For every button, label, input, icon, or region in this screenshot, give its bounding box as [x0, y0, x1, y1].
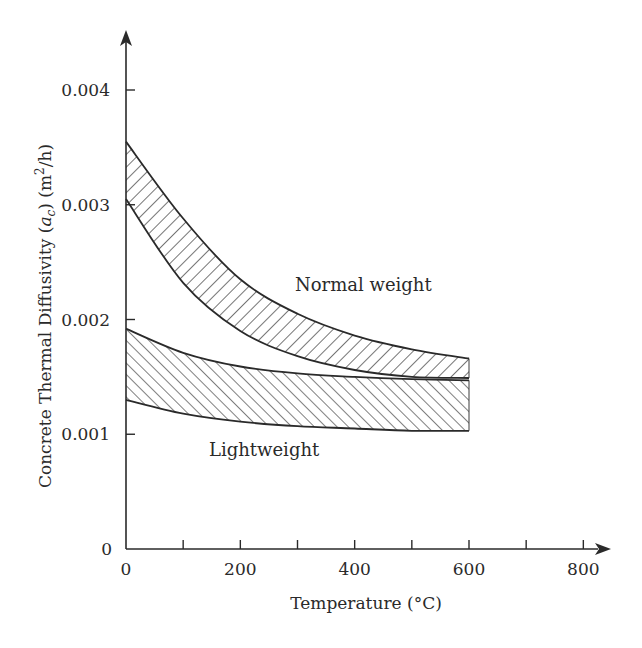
- y-ticks: 00.0010.0020.0030.004: [61, 80, 135, 559]
- normal-weight-label: Normal weight: [295, 274, 432, 295]
- x-tick-label: 200: [224, 559, 256, 579]
- normal-weight-band: [126, 142, 469, 378]
- x-tick-label: 0: [121, 559, 132, 579]
- x-ticks: 0200400600800: [121, 540, 600, 579]
- x-tick-label: 400: [338, 559, 370, 579]
- lightweight-label: Lightweight: [209, 439, 320, 460]
- y-tick-label: 0.003: [61, 195, 110, 215]
- y-tick-label: 0.001: [61, 424, 110, 444]
- y-tick-label: 0.002: [61, 310, 110, 330]
- chart: 0200400600800 00.0010.0020.0030.004 Temp…: [0, 0, 642, 648]
- y-axis-title: Concrete Thermal Diffusivity (ac) (m2/h): [33, 144, 58, 488]
- y-tick-label: 0.004: [61, 80, 110, 100]
- x-tick-label: 800: [567, 559, 599, 579]
- x-tick-label: 600: [453, 559, 485, 579]
- y-tick-label: 0: [101, 539, 112, 559]
- x-axis-title: Temperature (°C): [290, 593, 442, 613]
